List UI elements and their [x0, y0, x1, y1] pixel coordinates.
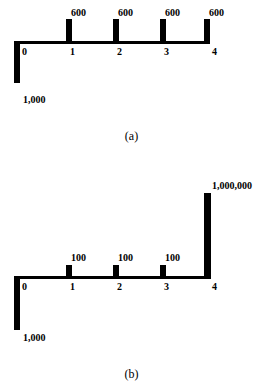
cash-outflow-bar-t0-a: [14, 41, 20, 83]
amount-label-t4-b: 1,000,000: [212, 181, 252, 191]
cash-outflow-bar-t0-b: [14, 276, 20, 330]
amount-label-t0-a: 1,000: [23, 95, 46, 105]
amount-label-t1-b: 100: [71, 253, 86, 263]
cash-inflow-bar-t1-a: [66, 19, 72, 44]
tick-label-1-a: 1: [70, 47, 75, 57]
tick-label-3-b: 3: [164, 282, 169, 292]
cash-inflow-bar-t3-b: [160, 265, 166, 279]
cash-inflow-bar-t4-b: [204, 193, 211, 279]
amount-label-t3-a: 600: [165, 8, 180, 18]
cash-inflow-bar-t2-b: [113, 265, 119, 279]
cash-inflow-bar-t1-b: [66, 265, 72, 279]
amount-label-t1-a: 600: [71, 8, 86, 18]
tick-label-4-b: 4: [212, 282, 217, 292]
tick-label-2-b: 2: [117, 282, 122, 292]
amount-label-t0-b: 1,000: [23, 333, 46, 343]
timeline-axis-a: [14, 41, 210, 44]
figure-caption-b: (b): [0, 368, 263, 380]
tick-label-0-a: 0: [22, 47, 27, 57]
amount-label-t2-b: 100: [118, 253, 133, 263]
figure-caption-a: (a): [0, 130, 263, 142]
cash-flow-diagram-b: 100 100 100 1,000,000 1,000 0 1 2 3 4 (b…: [0, 160, 263, 389]
tick-label-3-a: 3: [164, 47, 169, 57]
tick-label-0-b: 0: [22, 282, 27, 292]
tick-label-1-b: 1: [70, 282, 75, 292]
cash-flow-diagram-a: 600 600 600 600 1,000 0 1 2 3 4 (a): [0, 0, 263, 150]
amount-label-t2-a: 600: [118, 8, 133, 18]
amount-label-t3-b: 100: [165, 253, 180, 263]
amount-label-t4-a: 600: [209, 8, 224, 18]
cash-inflow-bar-t3-a: [160, 19, 166, 44]
cash-inflow-bar-t2-a: [113, 19, 119, 44]
tick-label-2-a: 2: [117, 47, 122, 57]
tick-label-4-a: 4: [212, 47, 217, 57]
cash-inflow-bar-t4-a: [204, 19, 210, 44]
timeline-axis-b: [14, 276, 210, 279]
